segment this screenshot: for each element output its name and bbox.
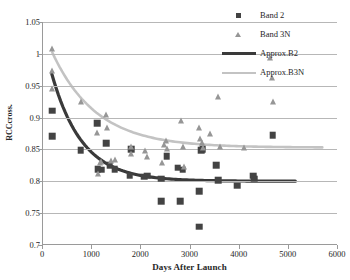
x-tick-mark <box>140 245 141 249</box>
x-tick-label: 1000 <box>83 250 100 259</box>
legend-square-icon <box>222 6 256 25</box>
data-point-band-3n <box>49 46 55 52</box>
square-icon <box>236 13 241 18</box>
data-point-band-3n <box>49 85 55 91</box>
data-point-band-3n <box>180 143 186 149</box>
data-point-band-3n <box>95 171 101 177</box>
data-point-band-2 <box>94 120 101 127</box>
triangle-icon <box>235 32 241 37</box>
gridline <box>43 86 337 87</box>
legend-dark-line-icon <box>222 44 256 63</box>
data-point-band-2 <box>144 172 151 179</box>
gridline <box>43 118 337 119</box>
legend-item-label: Band 3N <box>260 25 290 44</box>
x-tick-label: 0 <box>40 250 44 259</box>
data-point-band-3n <box>128 143 134 149</box>
legend-triangle-icon <box>222 25 256 44</box>
legend-light-line-icon <box>222 63 256 82</box>
data-point-band-2 <box>158 175 165 182</box>
data-point-band-3n <box>181 163 187 169</box>
data-point-band-3n <box>215 93 221 99</box>
data-point-band-2 <box>126 172 133 179</box>
chart-container: 0.70.750.80.850.90.9511.05 RCCcross. 010… <box>0 0 350 280</box>
data-point-band-3n <box>49 67 55 73</box>
data-point-band-2 <box>78 147 85 154</box>
x-tick-label: 5000 <box>279 250 296 259</box>
line-light-icon <box>222 72 256 74</box>
x-tick-mark <box>337 245 338 249</box>
chart-legend: Band 2Band 3NApprox.B2Approx.B3N <box>222 6 348 82</box>
data-point-band-3n <box>98 158 104 164</box>
data-point-band-2 <box>103 140 110 147</box>
data-point-band-3n <box>164 145 170 151</box>
data-point-band-2 <box>234 182 241 189</box>
data-point-band-2 <box>251 175 258 182</box>
y-tick-label: 1.05 <box>2 18 40 27</box>
legend-item[interactable]: Approx.B2 <box>222 44 348 63</box>
data-point-band-3n <box>78 99 84 105</box>
legend-item-label: Approx.B3N <box>260 63 304 82</box>
legend-item-label: Approx.B2 <box>260 44 298 63</box>
data-point-band-2 <box>196 223 203 230</box>
x-tick-mark <box>190 245 191 249</box>
line-dark-icon <box>222 52 256 55</box>
data-point-band-2 <box>158 198 165 205</box>
legend-item-label: Band 2 <box>260 6 284 25</box>
data-point-band-3n <box>217 143 223 149</box>
x-tick-mark <box>42 245 43 249</box>
data-point-band-3n <box>144 153 150 159</box>
data-point-band-2 <box>49 133 56 140</box>
gridline <box>43 149 337 150</box>
data-point-band-2 <box>215 177 222 184</box>
data-point-band-2 <box>213 162 220 169</box>
data-point-band-2 <box>269 132 276 139</box>
x-tick-mark <box>91 245 92 249</box>
x-tick-label: 2000 <box>132 250 149 259</box>
data-point-band-3n <box>178 118 184 124</box>
data-point-band-3n <box>104 124 110 130</box>
x-axis-title: Days After Launch <box>42 262 337 272</box>
x-tick-label: 3000 <box>181 250 198 259</box>
data-point-band-3n <box>241 144 247 150</box>
data-point-band-3n <box>112 157 118 163</box>
legend-item[interactable]: Band 3N <box>222 25 348 44</box>
data-point-band-2 <box>177 198 184 205</box>
gridline <box>43 181 337 182</box>
data-point-band-3n <box>207 131 213 137</box>
data-point-band-3n <box>103 111 109 117</box>
data-point-band-2 <box>111 166 118 173</box>
data-point-band-3n <box>163 138 169 144</box>
legend-item[interactable]: Band 2 <box>222 6 348 25</box>
legend-item[interactable]: Approx.B3N <box>222 63 348 82</box>
y-tick-label: 0.7 <box>2 241 40 250</box>
data-point-band-2 <box>49 107 56 114</box>
data-point-band-3n <box>196 125 202 131</box>
data-point-band-3n <box>94 129 100 135</box>
y-tick-label: 0.8 <box>2 177 40 186</box>
x-tick-mark <box>288 245 289 249</box>
data-point-band-3n <box>128 150 134 156</box>
x-tick-mark <box>239 245 240 249</box>
y-tick-label: 0.75 <box>2 209 40 218</box>
data-point-band-2 <box>196 188 203 195</box>
y-tick-label: 1 <box>2 50 40 59</box>
data-point-band-3n <box>159 159 165 165</box>
x-tick-label: 6000 <box>329 250 346 259</box>
y-axis-title: RCCcross. <box>5 88 14 158</box>
data-point-band-3n <box>200 144 206 150</box>
x-tick-label: 4000 <box>230 250 247 259</box>
gridline <box>43 213 337 214</box>
data-point-band-3n <box>142 147 148 153</box>
data-point-band-3n <box>270 99 276 105</box>
